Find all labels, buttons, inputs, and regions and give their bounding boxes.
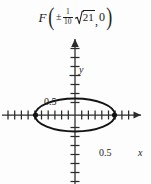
focus-expression-label: F ( ± 1 10 21 , 0 ) (14, 3, 138, 31)
coordinate-plane: x y 0.5 0.5 (0, 28, 151, 184)
second-coordinate: 0 (99, 11, 105, 23)
expression-comma: , (95, 15, 98, 27)
open-paren: ( (48, 7, 54, 27)
x-axis-arrowhead (134, 111, 142, 118)
x-axis-group (2, 111, 141, 120)
ellipse-figure: F ( ± 1 10 21 , 0 ) (0, 0, 151, 184)
y-axis-tick-label-half: 0.5 (44, 96, 57, 107)
y-axis-label: y (79, 64, 83, 75)
focus-point-right (112, 112, 117, 117)
fraction-one-tenth: 1 10 (63, 8, 73, 26)
x-axis-tick-label-half: 0.5 (99, 147, 112, 158)
function-letter: F (38, 11, 46, 24)
focus-point-left (33, 112, 38, 117)
y-axis-arrowhead (71, 39, 79, 47)
math-expression: F ( ± 1 10 21 , 0 ) (38, 7, 113, 27)
radicand-value: 21 (83, 10, 95, 25)
y-axis-group (70, 39, 81, 184)
close-paren: ) (106, 7, 112, 27)
plot-svg (0, 28, 151, 184)
x-axis-label: x (138, 147, 142, 158)
radical-group: 21 (75, 10, 95, 25)
fraction-denominator: 10 (63, 18, 73, 26)
fraction-numerator: 1 (65, 8, 71, 16)
plus-minus-sign: ± (56, 12, 62, 22)
